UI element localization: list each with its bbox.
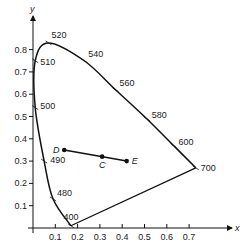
y-tick-label: 0.6	[14, 89, 27, 99]
wavelength-label-400: 400	[63, 212, 78, 222]
wavelength-labels: 400480490500510520540560580600700	[32, 30, 216, 228]
x-tick-label: 0.5	[138, 232, 151, 242]
point-label-C: C	[99, 160, 106, 170]
point-D	[62, 148, 67, 153]
wavelength-label-520: 520	[52, 30, 67, 40]
y-tick-label: 0.8	[14, 45, 27, 55]
dominant-wavelength-segment	[64, 150, 126, 161]
purple-line	[71, 168, 196, 226]
y-axis-label: y	[29, 4, 35, 14]
y-ticks: 0.10.20.30.40.50.60.70.8	[14, 45, 33, 211]
x-tick-label: 0.2	[71, 232, 84, 242]
wavelength-label-500: 500	[40, 101, 55, 111]
x-tick-label: 0.4	[116, 232, 129, 242]
point-C	[100, 154, 105, 159]
point-label-D: D	[53, 145, 60, 155]
wavelength-label-600: 600	[178, 137, 193, 147]
wavelength-label-580: 580	[152, 110, 167, 120]
y-tick-label: 0.5	[14, 112, 27, 122]
chromaticity-diagram: x y 0.10.20.30.40.50.60.7 0.10.20.30.40.…	[0, 0, 240, 248]
y-tick-label: 0.3	[14, 156, 27, 166]
wavelength-tick	[113, 88, 119, 92]
spectral-locus-curve	[34, 43, 196, 226]
wavelength-label-480: 480	[57, 188, 72, 198]
point-label-E: E	[132, 156, 139, 166]
chromaticity-points: DCE	[53, 145, 139, 170]
wavelength-tick	[81, 59, 87, 63]
x-tick-label: 0.7	[183, 232, 196, 242]
x-ticks: 0.10.20.30.40.50.60.7	[49, 224, 195, 242]
x-tick-label: 0.3	[94, 232, 107, 242]
wavelength-label-540: 540	[88, 49, 103, 59]
y-tick-label: 0.1	[14, 201, 27, 211]
wavelength-label-560: 560	[120, 78, 135, 88]
wavelength-label-700: 700	[201, 163, 216, 173]
wavelength-label-490: 490	[50, 155, 65, 165]
y-tick-label: 0.7	[14, 67, 27, 77]
y-tick-label: 0.2	[14, 178, 27, 188]
x-tick-label: 0.6	[161, 232, 174, 242]
wavelength-tick	[144, 117, 150, 121]
point-E	[124, 159, 129, 164]
wavelength-label-510: 510	[40, 57, 55, 67]
y-tick-label: 0.4	[14, 134, 27, 144]
x-axis-label: x	[234, 223, 240, 233]
wavelength-tick	[170, 143, 176, 147]
x-tick-label: 0.1	[49, 232, 62, 242]
